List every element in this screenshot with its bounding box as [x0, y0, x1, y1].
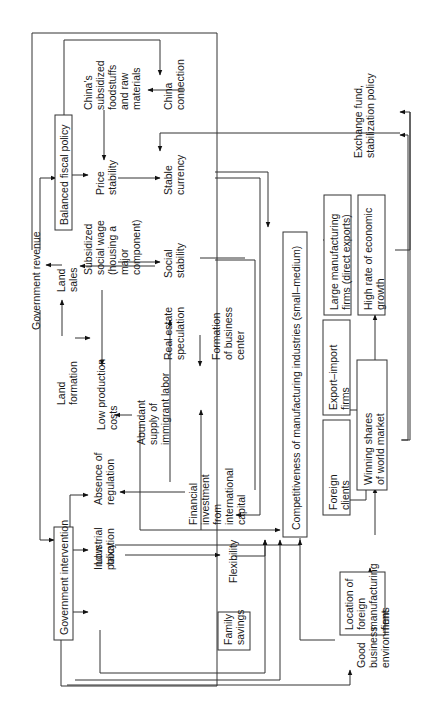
label-land-sales: Land sales: [55, 267, 79, 292]
svg-text:component): component): [130, 220, 142, 275]
label-chinas-subsidized: China's subsidized foodstuffs and raw ma…: [82, 60, 142, 110]
svg-text:firms: firms: [339, 387, 351, 410]
svg-text:and raw: and raw: [118, 72, 130, 110]
svg-text:Low: Low: [92, 545, 104, 565]
svg-text:Financial: Financial: [187, 483, 199, 525]
svg-text:High rate of economic: High rate of economic: [362, 208, 374, 310]
svg-text:currency: currency: [174, 154, 186, 195]
svg-text:formation: formation: [67, 361, 79, 405]
label-abundant-labor: Abundant supply of immigrant labor: [135, 372, 171, 445]
svg-text:(housing a: (housing a: [106, 226, 118, 275]
svg-text:clients: clients: [339, 480, 351, 510]
svg-text:regulation: regulation: [104, 459, 116, 505]
svg-text:international: international: [223, 468, 235, 525]
svg-text:foodstuffs: foodstuffs: [106, 65, 118, 110]
label-competitiveness: Competitiveness of manufacturing industr…: [290, 246, 302, 530]
svg-text:subsidized: subsidized: [94, 60, 106, 110]
svg-text:Good: Good: [355, 642, 367, 668]
svg-text:Formation: Formation: [210, 313, 222, 360]
svg-text:Export–import: Export–import: [327, 345, 339, 410]
svg-text:Land: Land: [55, 381, 67, 405]
svg-text:Real estate: Real estate: [162, 307, 174, 360]
svg-text:Subsidized: Subsidized: [82, 223, 94, 275]
svg-text:stabilization policy: stabilization policy: [364, 73, 376, 158]
svg-text:of business: of business: [222, 307, 234, 360]
svg-text:Abundant: Abundant: [135, 400, 147, 445]
svg-text:investment: investment: [199, 474, 211, 525]
label-balanced-fiscal-policy: Balanced fiscal policy: [58, 124, 70, 225]
label-absence-regulation: Absence of regulation: [92, 452, 116, 505]
svg-text:China: China: [162, 82, 174, 110]
svg-text:China's: China's: [82, 75, 94, 110]
svg-text:Exchange fund,: Exchange fund,: [352, 85, 364, 158]
label-formation-business-center: Formation of business center: [210, 307, 246, 360]
label-stable-currency: Stable currency: [162, 154, 186, 195]
svg-text:Low production: Low production: [95, 359, 107, 430]
label-china-connection: China connection: [162, 59, 186, 110]
label-family-savings: Family savings: [222, 609, 246, 645]
label-winning-shares: Winning shares of world market: [362, 413, 386, 485]
svg-text:of world market: of world market: [374, 413, 386, 485]
label-flexibility: Flexibility: [227, 539, 239, 583]
label-large-manufacturing-firms: Large manufacturing firms (direct export…: [328, 214, 352, 310]
svg-text:taxation: taxation: [104, 528, 116, 565]
svg-text:speculation: speculation: [174, 307, 186, 360]
svg-text:Location of: Location of: [343, 579, 355, 630]
svg-text:major: major: [118, 248, 130, 275]
svg-text:savings: savings: [234, 609, 246, 645]
svg-text:manufacturing: manufacturing: [367, 563, 379, 630]
svg-text:Family: Family: [222, 613, 234, 645]
svg-text:Land: Land: [55, 268, 67, 292]
svg-text:environment: environment: [379, 610, 391, 668]
svg-text:Price: Price: [94, 171, 106, 195]
svg-text:stability: stability: [174, 242, 186, 278]
svg-text:Large manufacturing: Large manufacturing: [328, 214, 340, 310]
svg-text:immigrant labor: immigrant labor: [159, 372, 171, 445]
label-government-intervention: Government intervention: [58, 520, 70, 635]
svg-text:Foreign: Foreign: [327, 474, 339, 510]
svg-text:Social: Social: [162, 249, 174, 278]
svg-text:Winning shares: Winning shares: [362, 413, 374, 485]
svg-text:center: center: [234, 330, 246, 360]
label-social-stability: Social stability: [162, 242, 186, 278]
svg-text:Stable: Stable: [162, 165, 174, 195]
svg-text:supply of: supply of: [147, 403, 159, 445]
svg-text:growth: growth: [374, 278, 386, 310]
labels: Balanced fiscal policy Government interv…: [30, 59, 391, 668]
svg-text:social wage: social wage: [94, 220, 106, 275]
svg-text:capital: capital: [235, 495, 247, 525]
label-exchange-fund: Exchange fund, stabilization policy: [352, 73, 376, 158]
svg-text:foreign: foreign: [355, 598, 367, 630]
svg-text:sales: sales: [67, 267, 79, 292]
label-government-revenue: Government revenue: [30, 231, 42, 330]
label-low-production-costs: Low production costs: [95, 359, 119, 430]
label-subsidized-social-wage: Subsidized social wage (housing a major …: [82, 220, 142, 275]
svg-text:stability: stability: [106, 159, 118, 195]
svg-text:materials: materials: [130, 67, 142, 110]
svg-text:firms (direct exports): firms (direct exports): [340, 214, 352, 310]
label-price-stability: Price stability: [94, 159, 118, 195]
svg-text:connection: connection: [174, 59, 186, 110]
svg-text:Absence of: Absence of: [92, 452, 104, 505]
svg-text:from: from: [211, 504, 223, 525]
hong-kong-growth-diagram: Balanced fiscal policy Government interv…: [0, 0, 437, 716]
label-land-formation: Land formation: [55, 361, 79, 405]
svg-text:business: business: [367, 627, 379, 668]
label-real-estate-speculation: Real estate speculation: [162, 307, 186, 360]
svg-text:costs: costs: [107, 405, 119, 430]
